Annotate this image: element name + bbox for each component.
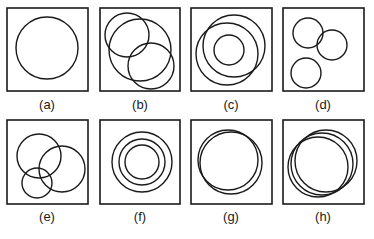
panel-frame [7,120,88,204]
panel-frame [283,8,364,91]
panel-label-d: (d) [315,97,331,112]
panel-label-c: (c) [223,97,238,112]
panel-label-b: (b) [132,97,148,112]
panel-g [191,120,272,204]
panel-b [100,8,180,91]
circle-shape [16,17,78,79]
panel-h [283,120,364,204]
panel-f [100,120,180,204]
circle-configurations-diagram [0,0,374,239]
panel-label-e: (e) [39,209,55,224]
panel-a [7,8,88,91]
circle-shape [39,146,85,192]
circle-shape [214,35,244,65]
circle-shape [291,58,321,88]
circle-shape [293,18,323,48]
circle-shape [119,139,165,185]
circle-shape [22,168,52,198]
panel-label-h: (h) [315,209,331,224]
circle-shape [125,145,159,179]
panel-c [191,8,272,91]
circle-shape [198,130,258,190]
panel-e [7,120,88,204]
panel-d [283,8,364,91]
panel-label-g: (g) [223,209,239,224]
panel-label-f: (f) [134,209,146,224]
panel-label-a: (a) [39,97,55,112]
circle-shape [200,132,262,194]
circle-shape [109,19,171,81]
circle-shape [317,30,347,60]
circle-shape [112,132,172,192]
